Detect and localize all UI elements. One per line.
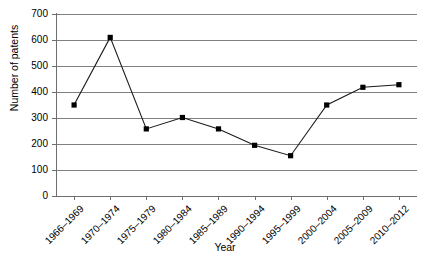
data-point-marker bbox=[72, 102, 77, 107]
data-point-marker bbox=[108, 35, 113, 40]
patents-line-chart: Number of patents 7006005004003002001000… bbox=[0, 0, 421, 269]
series-line bbox=[74, 37, 399, 155]
data-point-marker bbox=[216, 126, 221, 131]
data-point-marker bbox=[180, 115, 185, 120]
data-point-marker bbox=[288, 153, 293, 158]
series-number-of-patents bbox=[72, 35, 402, 159]
data-point-marker bbox=[144, 126, 149, 131]
data-series-layer bbox=[0, 0, 421, 269]
data-point-marker bbox=[396, 82, 401, 87]
data-point-marker bbox=[360, 85, 365, 90]
data-point-marker bbox=[324, 102, 329, 107]
data-point-marker bbox=[252, 143, 257, 148]
